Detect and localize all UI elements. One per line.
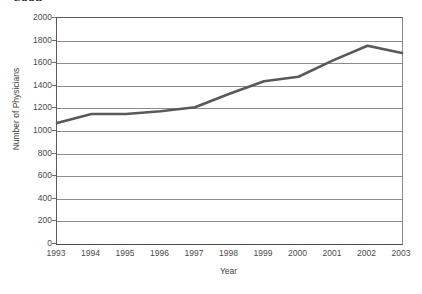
data-series-line [57,18,402,244]
y-axis-tick-label: 400 [8,194,52,203]
y-axis-title: Number of Physicians [11,49,21,169]
y-axis-tick-label: 2000 [8,13,52,22]
x-axis-title: Year [56,266,401,276]
y-axis-tick-label: 200 [8,216,52,225]
clipped-figure-title: 2003 [14,0,43,1]
y-axis-tick-label: 600 [8,171,52,180]
x-axis-tick-label: 2003 [381,248,421,258]
chart-figure: 2003 02004006008001000120014001600180020… [0,0,422,294]
x-axis-tick-labels: 1993199419951996199719981999200020012002… [56,248,401,262]
y-axis-tick-label: 0 [8,239,52,248]
plot-area [56,17,403,245]
y-axis-tick-label: 1800 [8,36,52,45]
